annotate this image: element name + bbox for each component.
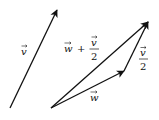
vector-w-plus-v-half-arrow — [51, 22, 148, 108]
vector-diagram: v w v 2 w + v 2 — [0, 0, 159, 120]
svg-text:2: 2 — [140, 61, 146, 72]
vector-w-arrow — [51, 71, 124, 108]
vector-w-label: w — [90, 91, 99, 103]
vector-sum-label: w + v 2 — [64, 36, 99, 62]
svg-text:v: v — [91, 37, 97, 48]
svg-text:v: v — [21, 46, 27, 57]
svg-text:+: + — [77, 43, 85, 54]
svg-text:w: w — [90, 92, 99, 103]
svg-text:w: w — [64, 43, 73, 54]
svg-text:v: v — [140, 47, 146, 58]
vector-v-half-label: v 2 — [139, 46, 148, 72]
vector-v-label: v — [21, 45, 27, 57]
svg-text:2: 2 — [91, 51, 97, 62]
vector-v-arrow — [10, 10, 57, 108]
